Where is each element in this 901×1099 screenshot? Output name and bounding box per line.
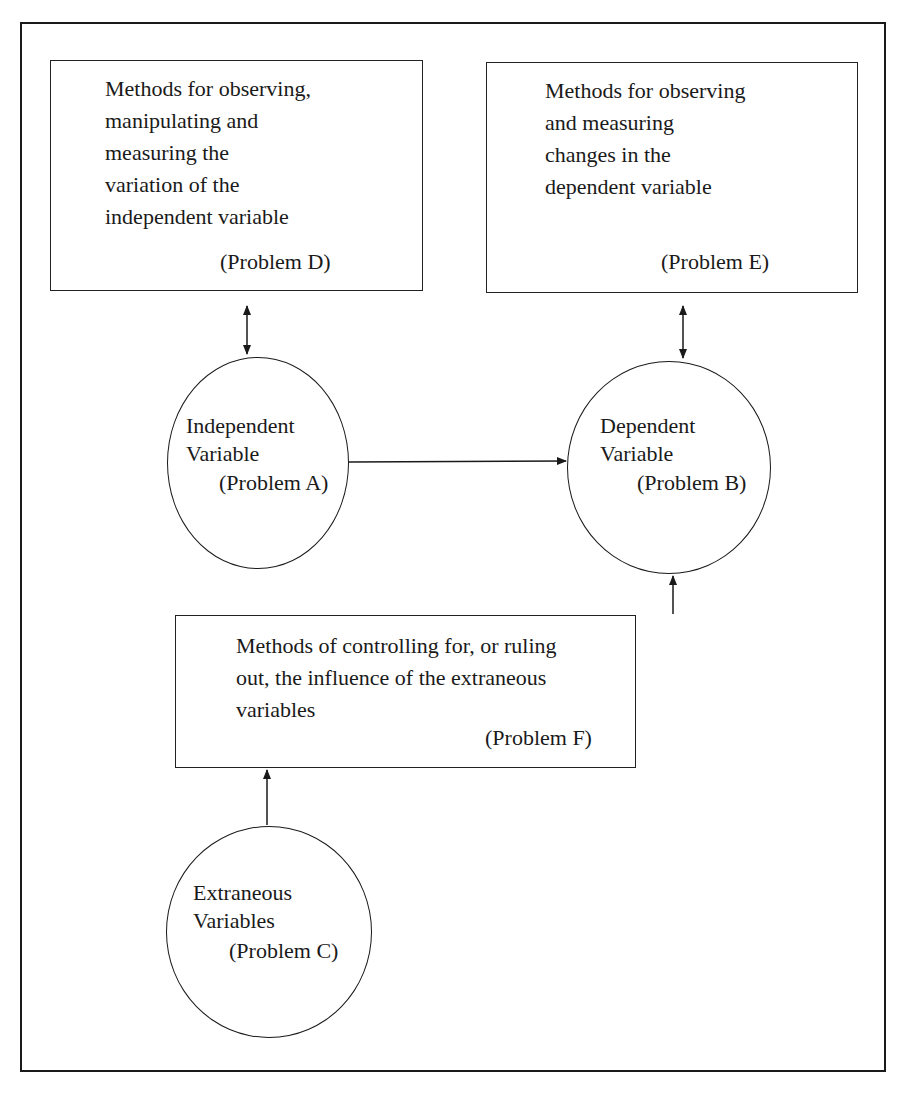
circle-problem-b-line2: Variable [600, 440, 673, 468]
box-problem-e-label: (Problem E) [661, 248, 769, 276]
circle-problem-a-line2: Variable [186, 440, 259, 468]
box-problem-d-text: Methods for observing, manipulating and … [105, 73, 311, 233]
circle-problem-c-label: (Problem C) [229, 937, 338, 965]
circle-problem-a-line1: Independent [186, 412, 295, 440]
box-problem-d-label: (Problem D) [220, 248, 331, 276]
circle-problem-a-label: (Problem A) [219, 469, 328, 497]
circle-problem-b-label: (Problem B) [637, 469, 746, 497]
box-problem-f-text: Methods of controlling for, or ruling ou… [236, 630, 557, 726]
box-problem-f-label: (Problem F) [485, 724, 592, 752]
circle-problem-c-line1: Extraneous [193, 879, 292, 907]
circle-problem-b-line1: Dependent [600, 412, 695, 440]
box-problem-e-text: Methods for observing and measuring chan… [545, 75, 745, 203]
circle-problem-c-line2: Variables [193, 907, 275, 935]
